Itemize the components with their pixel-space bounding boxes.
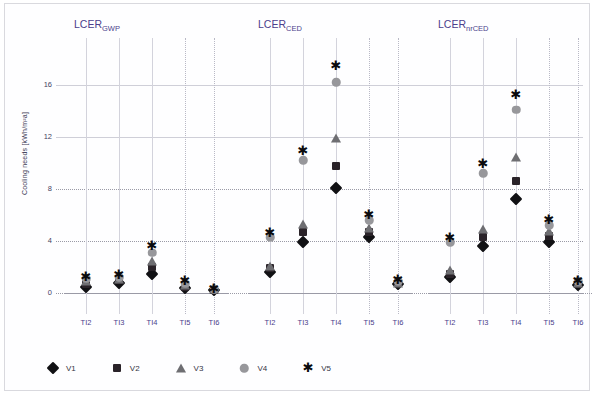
legend-label: V4 [257,364,267,373]
triangle-marker [478,225,488,234]
legend-symbol [110,361,124,375]
panel-title-base: LCER [438,18,466,30]
x-axis-tick-label: TI2 [81,318,92,327]
square-marker [512,177,520,185]
panel-baseline [428,293,592,294]
asterisk-marker: ✱ [146,240,158,252]
asterisk-marker: ✱ [572,275,584,287]
asterisk-marker: ✱ [80,271,92,283]
chart-panel: LCERnrCEDTI2TI3TI4TI5TI6✱✱✱✱✱ [420,18,588,328]
legend: V1V2V3V4✱V5 [46,358,365,378]
chart-panel: LCERGWPTI2TI3TI4TI5TI6✱✱✱✱✱ [56,18,224,328]
square-marker [113,364,121,372]
legend-symbol: ✱ [301,361,315,375]
column-gridline [214,38,215,314]
panel-title-base: LCER [74,18,102,30]
legend-label: V2 [130,364,140,373]
diamond-marker [330,181,343,194]
y-axis-tick-label: 16 [34,80,52,89]
legend-label: V1 [66,364,76,373]
x-axis-tick-label: TI4 [147,318,158,327]
circle-marker [332,78,341,87]
asterisk-marker: ✱ [297,145,309,157]
x-axis-tick-label: TI6 [573,318,584,327]
legend-item[interactable]: V4 [237,361,267,375]
x-axis-tick-label: TI6 [209,318,220,327]
asterisk-marker: ✱ [477,158,489,170]
legend-symbol [237,361,251,375]
diamond-marker [47,362,60,375]
asterisk-marker: ✱ [264,227,276,239]
legend-item[interactable]: ✱V5 [301,361,331,375]
asterisk-marker: ✱ [302,362,314,374]
panel-title-subscript: GWP [102,24,120,33]
panel-title: LCERCED [258,18,302,33]
legend-item[interactable]: V2 [110,361,140,375]
y-axis-tick-label: 4 [34,236,52,245]
square-marker [299,228,307,236]
x-axis-tick-label: TI5 [544,318,555,327]
triangle-marker [147,256,157,265]
legend-item[interactable]: V3 [174,361,204,375]
panel-title-subscript: CED [286,24,302,33]
column-gridline [516,38,517,314]
x-axis-tick-label: TI2 [445,318,456,327]
triangle-marker [298,220,308,229]
legend-label: V3 [194,364,204,373]
asterisk-marker: ✱ [208,283,220,295]
asterisk-marker: ✱ [392,274,404,286]
legend-symbol [174,361,188,375]
asterisk-marker: ✱ [444,232,456,244]
panel-baseline [248,293,412,294]
x-axis-tick-label: TI3 [298,318,309,327]
x-axis-tick-label: TI5 [364,318,375,327]
x-axis-tick-label: TI4 [331,318,342,327]
x-axis-tick-label: TI4 [511,318,522,327]
column-gridline [549,38,550,314]
x-axis-tick-label: TI6 [393,318,404,327]
diamond-marker [510,193,523,206]
legend-item[interactable]: V1 [46,361,76,375]
asterisk-marker: ✱ [543,214,555,226]
legend-label: V5 [321,364,331,373]
y-axis-tick-label: 12 [34,132,52,141]
triangle-marker [445,265,455,274]
asterisk-marker: ✱ [330,60,342,72]
y-axis-label: Cooling needs [kWh/m²a] [21,44,28,264]
triangle-marker [511,152,521,161]
panel-baseline [64,293,228,294]
triangle-marker [364,224,374,233]
legend-symbol [46,361,60,375]
x-axis-tick-label: TI3 [114,318,125,327]
figure-canvas: Cooling needs [kWh/m²a] 0481216 LCERGWPT… [0,0,595,395]
y-axis-tick-label: 8 [34,184,52,193]
asterisk-marker: ✱ [113,269,125,281]
circle-marker [240,364,249,373]
x-axis-tick-label: TI3 [478,318,489,327]
square-marker [479,233,487,241]
panel-title-subscript: nrCED [466,24,489,33]
diamond-marker [297,236,310,249]
column-gridline [369,38,370,314]
asterisk-marker: ✱ [179,275,191,287]
diamond-marker [477,240,490,253]
square-marker [332,162,340,170]
triangle-marker [176,364,186,373]
panel-title: LCERGWP [74,18,120,33]
column-gridline [303,38,304,314]
asterisk-marker: ✱ [363,209,375,221]
chart-panel: LCERCEDTI2TI3TI4TI5TI6✱✱✱✱✱ [240,18,408,328]
panel-title: LCERnrCED [438,18,489,33]
x-axis-tick-label: TI2 [265,318,276,327]
triangle-marker [331,134,341,143]
panel-title-base: LCER [258,18,286,30]
asterisk-marker: ✱ [510,89,522,101]
triangle-marker [265,261,275,270]
circle-marker [512,105,521,114]
y-axis-tick-label: 0 [34,288,52,297]
x-axis-tick-label: TI5 [180,318,191,327]
